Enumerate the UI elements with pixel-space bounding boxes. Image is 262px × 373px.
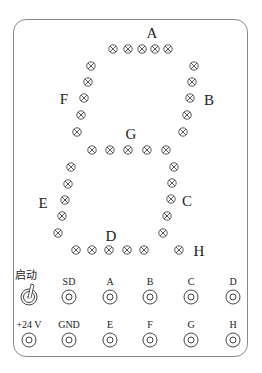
lamp-icon	[67, 163, 75, 171]
lamp-icon	[73, 128, 81, 136]
lamp-icon	[168, 179, 176, 187]
terminal-gnd[interactable]	[62, 333, 76, 347]
lamp-icon	[186, 94, 194, 102]
lamp-icon	[77, 111, 85, 119]
terminal-label-g: G	[187, 320, 194, 330]
segment-label-d: D	[106, 229, 117, 244]
terminal-d[interactable]	[226, 290, 240, 304]
lamp-icon	[159, 229, 167, 237]
start-switch-label: 启动	[15, 270, 37, 281]
lamp-icon	[87, 62, 95, 70]
lamp-icon	[179, 128, 187, 136]
lamp-icon	[170, 163, 178, 171]
seven-segment-lamp-array	[0, 0, 262, 373]
terminal-b[interactable]	[143, 290, 157, 304]
segment-label-f: F	[60, 92, 68, 107]
lamp-icon	[124, 146, 132, 154]
lamp-icon	[80, 94, 88, 102]
lamp-icon	[164, 45, 172, 53]
terminal-g[interactable]	[184, 333, 198, 347]
terminal-label-sd: SD	[63, 277, 76, 287]
lamp-icon	[138, 45, 146, 53]
lamp-icon	[61, 196, 69, 204]
terminal-sd[interactable]	[62, 290, 76, 304]
lamp-icon	[188, 78, 196, 86]
terminal-f[interactable]	[143, 333, 157, 347]
lamp-icon	[106, 146, 114, 154]
terminal-24v[interactable]	[22, 333, 36, 347]
lamp-icon	[175, 246, 183, 254]
terminal-label-gnd: GND	[58, 320, 80, 330]
terminal-label-d: D	[229, 277, 236, 287]
segment-label-b: B	[204, 93, 214, 108]
lamp-icon	[88, 146, 96, 154]
lamp-icon	[167, 195, 175, 203]
segment-label-c: C	[182, 194, 192, 209]
terminal-label-c: C	[188, 277, 195, 287]
segment-label-g: G	[126, 127, 137, 142]
lamp-icon	[162, 146, 170, 154]
lamp-icon	[58, 212, 66, 220]
lamp-icon	[88, 246, 96, 254]
lamp-icon	[163, 212, 171, 220]
lamp-icon	[190, 62, 198, 70]
lamp-icon	[151, 45, 159, 53]
lamp-icon	[54, 229, 62, 237]
segment-label-h: H	[194, 244, 205, 259]
terminal-label-b: B	[147, 277, 154, 287]
lamp-icon	[84, 78, 92, 86]
terminal-h[interactable]	[226, 333, 240, 347]
segment-label-a: A	[147, 26, 158, 41]
terminal-label-a: A	[106, 277, 113, 287]
segment-label-e: E	[38, 196, 47, 211]
lamp-icon	[72, 246, 80, 254]
terminal-label-e: E	[107, 320, 113, 330]
lamp-icon	[183, 111, 191, 119]
terminal-c[interactable]	[184, 290, 198, 304]
terminal-label-h: H	[229, 320, 236, 330]
lamp-icon	[123, 246, 131, 254]
terminal-label-24v: +24 V	[16, 320, 41, 330]
lamp-icon	[124, 45, 132, 53]
terminal-e[interactable]	[103, 333, 117, 347]
lamp-icon	[105, 246, 113, 254]
start-switch[interactable]	[21, 284, 37, 305]
lamp-icon	[109, 45, 117, 53]
terminal-a[interactable]	[103, 290, 117, 304]
lamp-icon	[64, 180, 72, 188]
terminal-label-f: F	[147, 320, 153, 330]
lamp-icon	[140, 246, 148, 254]
lamp-icon	[143, 146, 151, 154]
